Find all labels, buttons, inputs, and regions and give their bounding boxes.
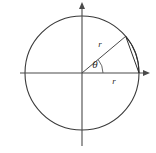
angle-label: θ: [92, 58, 98, 70]
circle-angle-figure: r r θ: [0, 0, 156, 153]
y-axis-arrowhead-icon: [79, 2, 85, 9]
angle-marker-arc: [98, 60, 103, 74]
figure-canvas: r r θ: [0, 0, 156, 153]
terminal-radius-line: [82, 36, 126, 73]
x-axis-arrowhead-icon: [143, 70, 150, 76]
radius-horizontal-label: r: [112, 76, 116, 86]
radius-terminal-label: r: [98, 39, 102, 49]
chord-line: [126, 36, 139, 73]
